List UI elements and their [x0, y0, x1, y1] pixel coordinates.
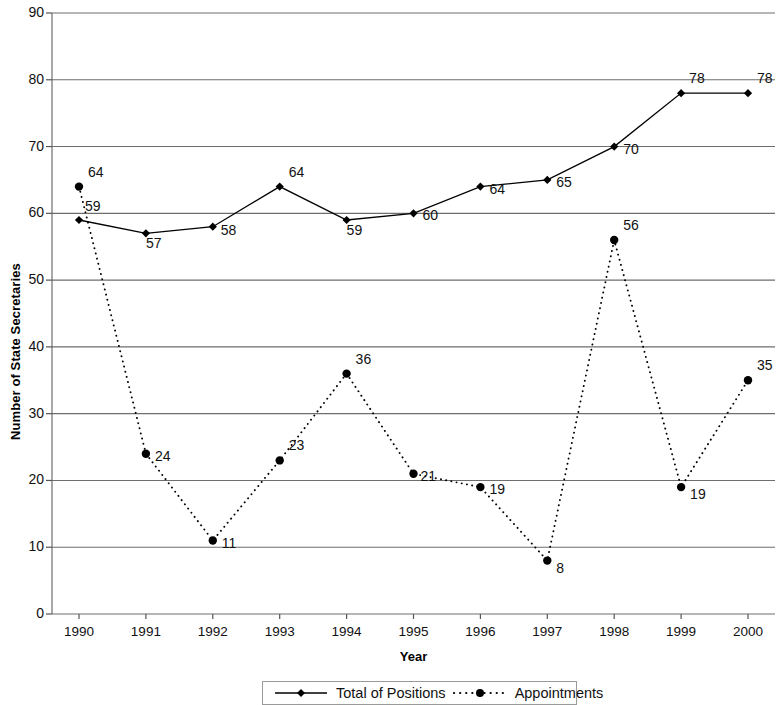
- y-tick-label: 20: [14, 471, 44, 487]
- data-point-label: 8: [556, 560, 564, 576]
- data-point-marker: [543, 556, 551, 564]
- data-point-label: 21: [421, 468, 437, 484]
- x-tick-label: 1991: [118, 624, 174, 639]
- legend-swatch-diamond-icon: [273, 686, 329, 700]
- data-point-label: 23: [289, 437, 305, 453]
- chart-legend: Total of PositionsAppointments: [262, 681, 577, 705]
- data-point-marker: [209, 536, 217, 544]
- data-point-label: 60: [423, 207, 439, 223]
- data-point-label: 58: [221, 222, 237, 238]
- series-line-2: [79, 187, 748, 561]
- data-point-marker: [142, 450, 150, 458]
- data-point-label: 64: [88, 164, 104, 180]
- data-point-label: 78: [689, 70, 705, 86]
- y-tick-label: 0: [14, 605, 44, 621]
- plot-area: [0, 0, 779, 705]
- x-tick-label: 1997: [519, 624, 575, 639]
- data-point-marker: [75, 216, 83, 224]
- data-point-marker: [409, 209, 417, 217]
- x-tick-label: 1999: [653, 624, 709, 639]
- data-point-label: 64: [489, 181, 505, 197]
- x-tick-label: 1993: [252, 624, 308, 639]
- data-point-marker: [75, 182, 83, 190]
- data-point-marker: [543, 176, 551, 184]
- data-point-marker: [677, 483, 685, 491]
- legend-label: Appointments: [515, 685, 604, 701]
- y-tick-label: 30: [14, 405, 44, 421]
- y-tick-label: 70: [14, 138, 44, 154]
- data-point-label: 65: [556, 174, 572, 190]
- data-point-label: 57: [146, 235, 162, 251]
- data-point-marker: [276, 456, 284, 464]
- x-tick-label: 1990: [51, 624, 107, 639]
- x-tick-label: 1996: [452, 624, 508, 639]
- data-point-label: 59: [347, 222, 363, 238]
- data-point-marker: [476, 183, 484, 191]
- data-point-marker: [276, 183, 284, 191]
- data-point-marker: [476, 483, 484, 491]
- data-point-label: 36: [356, 351, 372, 367]
- data-point-marker: [744, 376, 752, 384]
- data-point-label: 19: [690, 486, 706, 502]
- data-point-marker: [209, 223, 217, 231]
- y-tick-label: 90: [14, 4, 44, 20]
- data-point-label: 35: [757, 357, 773, 373]
- data-point-marker: [342, 369, 350, 377]
- x-tick-label: 1994: [319, 624, 375, 639]
- y-tick-label: 60: [14, 204, 44, 220]
- legend-label: Total of Positions: [336, 685, 446, 701]
- data-point-label: 70: [623, 141, 639, 157]
- x-tick-label: 1995: [386, 624, 442, 639]
- x-tick-label: 1998: [586, 624, 642, 639]
- data-point-label: 11: [222, 535, 237, 551]
- y-tick-label: 50: [14, 271, 44, 287]
- data-point-label: 24: [155, 448, 171, 464]
- x-axis-title: Year: [344, 649, 484, 664]
- data-point-marker: [409, 470, 417, 478]
- y-tick-label: 40: [14, 338, 44, 354]
- data-point-marker: [610, 236, 618, 244]
- data-point-label: 78: [757, 70, 773, 86]
- legend-item-2[interactable]: Appointments: [452, 685, 610, 701]
- data-point-label: 56: [623, 217, 639, 233]
- y-tick-label: 80: [14, 71, 44, 87]
- legend-swatch-circle-icon: [452, 686, 508, 700]
- x-tick-label: 2000: [720, 624, 776, 639]
- data-point-marker: [744, 89, 752, 97]
- data-point-label: 64: [289, 164, 305, 180]
- line-chart: Number of State Secretaries Year 0102030…: [0, 0, 779, 705]
- x-tick-label: 1992: [185, 624, 241, 639]
- data-point-label: 19: [489, 481, 505, 497]
- data-point-label: 59: [85, 198, 101, 214]
- legend-item-1[interactable]: Total of Positions: [273, 685, 452, 701]
- y-tick-label: 10: [14, 538, 44, 554]
